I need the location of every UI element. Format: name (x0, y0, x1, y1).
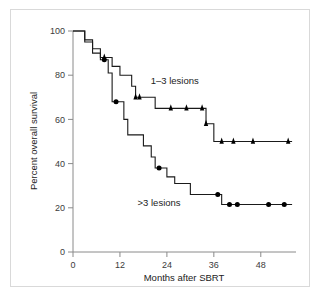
censor-marker-triangle (204, 120, 208, 126)
censor-marker-triangle (133, 93, 137, 99)
censor-marker-triangle (137, 93, 141, 99)
censor-marker-circle (215, 192, 220, 197)
x-axis-group: 012243648 (70, 252, 296, 270)
censor-marker-triangle (200, 104, 204, 110)
y-tick-label: 20 (55, 203, 65, 213)
censor-marker-circle (235, 202, 240, 207)
x-tick-label: 36 (209, 260, 219, 270)
y-axis-title: Percent overall survival (28, 92, 39, 190)
censor-marker-circle (266, 202, 271, 207)
x-tick-label: 48 (256, 260, 266, 270)
curve-label-2: >3 lesions (138, 197, 181, 208)
y-axis-group: 020406080100 (50, 26, 73, 257)
censor-marker-triangle (169, 104, 173, 110)
y-tick-label: 60 (55, 115, 65, 125)
curve-label-1: 1–3 lesions (151, 75, 199, 86)
y-tick-group: 020406080100 (50, 26, 73, 257)
x-axis-title: Months after SBRT (144, 272, 225, 283)
censor-marker-circle (114, 99, 119, 104)
censor-marker-circle (227, 202, 232, 207)
censor-marker-triangle (286, 138, 290, 144)
x-tick-group: 012243648 (70, 252, 265, 270)
x-tick-label: 0 (70, 260, 75, 270)
x-tick-label: 24 (162, 260, 172, 270)
censor-marker-triangle (219, 138, 223, 144)
y-tick-label: 100 (50, 26, 65, 36)
y-tick-label: 80 (55, 70, 65, 80)
censor-marker-circle (157, 166, 162, 171)
y-tick-label: 0 (60, 247, 65, 257)
censor-marker-triangle (251, 138, 255, 144)
censor-marker-triangle (231, 138, 235, 144)
censor-marker-circle (102, 57, 107, 62)
curve-label-layer: 1–3 lesions>3 lesions (138, 75, 199, 208)
survival-chart-canvas: 020406080100 012243648 1–3 lesions>3 les… (0, 0, 321, 297)
series-layer (73, 31, 292, 207)
censor-marker-circle (282, 202, 287, 207)
y-tick-label: 40 (55, 159, 65, 169)
kaplan-meier-figure: 020406080100 012243648 1–3 lesions>3 les… (0, 0, 321, 297)
series-1 (73, 31, 292, 144)
censor-marker-triangle (184, 104, 188, 110)
x-tick-label: 12 (115, 260, 125, 270)
survival-curve-triangle (73, 31, 292, 142)
